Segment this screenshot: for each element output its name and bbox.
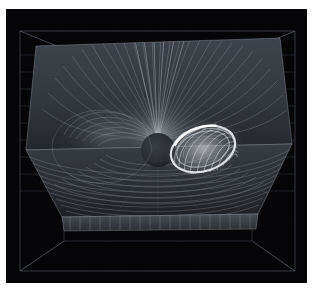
- scene-canvas: [6, 9, 307, 283]
- figure-container: [0, 0, 313, 299]
- front-apron-plane: [62, 214, 258, 232]
- visualization-scene: [6, 9, 307, 283]
